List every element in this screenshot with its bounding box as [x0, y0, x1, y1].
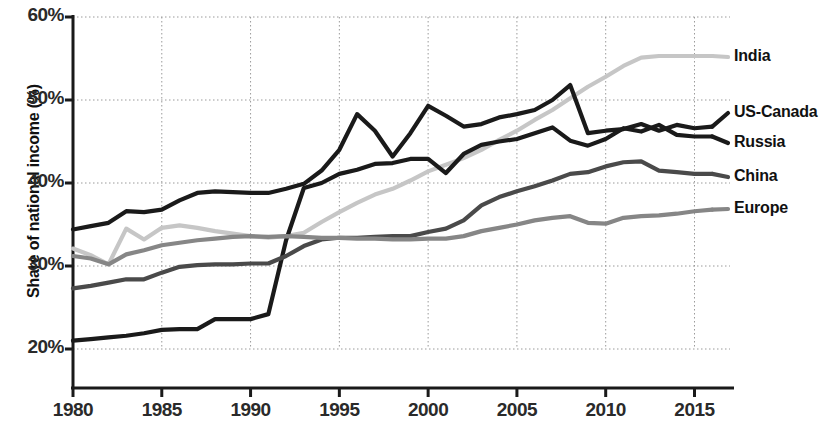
plot-area — [0, 0, 831, 430]
series-line-india — [73, 56, 712, 264]
legend-leader-india — [712, 56, 728, 57]
legend-leader-us-canada — [712, 113, 728, 127]
legend-leader-russia — [712, 137, 728, 143]
legend-leader-china — [712, 174, 728, 177]
chart-container: Share of national income (%) 60%50%40%30… — [0, 0, 831, 430]
series-line-us-canada — [73, 85, 712, 229]
legend-leader-europe — [712, 209, 728, 210]
data-series — [73, 56, 728, 341]
